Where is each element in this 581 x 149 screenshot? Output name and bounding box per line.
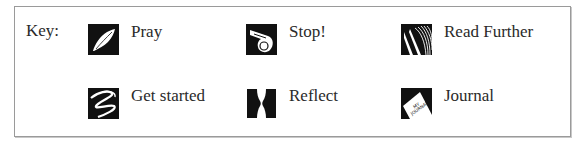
- squiggle-icon: [88, 88, 119, 119]
- feather-icon: [88, 24, 119, 55]
- whistle-icon: [246, 24, 277, 55]
- key-item-label: Read Further: [444, 23, 533, 40]
- journal-icon: MY JOURNAL: [401, 88, 432, 119]
- key-item-label: Get started: [131, 87, 205, 104]
- faces-vase-icon: [246, 88, 277, 119]
- key-item-label: Pray: [131, 23, 162, 40]
- key-item-label: Journal: [444, 87, 494, 104]
- book-pages-icon: [401, 24, 432, 55]
- key-item-reflect: Reflect: [246, 88, 338, 119]
- key-item-pray: Pray: [88, 24, 162, 55]
- key-item-get-started: Get started: [88, 88, 205, 119]
- key-item-label: Stop!: [289, 23, 326, 40]
- key-item-label: Reflect: [289, 87, 338, 104]
- key-item-stop: Stop!: [246, 24, 326, 55]
- key-item-journal: MY JOURNAL Journal: [401, 88, 494, 119]
- key-item-read-further: Read Further: [401, 24, 533, 55]
- key-heading: Key:: [26, 21, 59, 41]
